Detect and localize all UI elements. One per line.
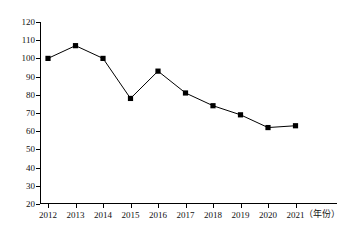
chart-figure: 2030405060708090100110120 20122013201420… <box>0 0 353 240</box>
series-layer <box>0 0 353 240</box>
data-point-marker <box>155 69 160 74</box>
data-point-marker <box>210 103 215 108</box>
data-point-marker <box>183 90 188 95</box>
data-point-marker <box>293 123 298 128</box>
data-point-marker <box>73 43 78 48</box>
x-axis-unit-label: （年份） <box>304 210 340 219</box>
series-line <box>48 46 296 128</box>
data-point-marker <box>238 112 243 117</box>
data-point-marker <box>45 56 50 61</box>
data-point-marker <box>100 56 105 61</box>
series-markers <box>45 43 298 130</box>
data-point-marker <box>265 125 270 130</box>
data-point-marker <box>128 96 133 101</box>
